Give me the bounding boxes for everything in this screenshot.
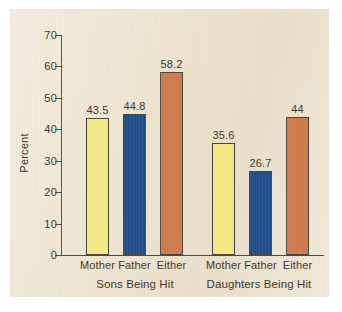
bar-sons-mother[interactable]: 43.5 <box>86 118 109 255</box>
y-tick-label: 20 <box>44 186 57 198</box>
x-axis-line <box>61 255 324 256</box>
x-label-daughters-either: Either <box>272 259 323 271</box>
bar-daughters-father[interactable]: 26.7 <box>249 171 272 255</box>
y-axis-line <box>61 35 62 256</box>
y-axis-title: Percent <box>18 133 30 172</box>
y-tick-label: 40 <box>44 123 57 135</box>
y-tick-label: 30 <box>44 155 57 167</box>
bar-value-label: 44.8 <box>123 100 145 112</box>
x-label-sons-either: Either <box>146 259 197 271</box>
bar-sons-either[interactable]: 58.2 <box>160 72 183 255</box>
bar-sons-father[interactable]: 44.8 <box>123 114 146 255</box>
group-title-sons: Sons Being Hit <box>69 278 201 290</box>
bar-value-label: 35.6 <box>212 129 234 141</box>
y-tick-label: 10 <box>44 218 57 230</box>
bar-value-label: 58.2 <box>160 58 182 70</box>
y-tick-label: 70 <box>44 29 57 41</box>
chart-figure: Percent 70 60 50 40 30 <box>0 0 342 312</box>
bar-value-label: 44 <box>291 103 304 115</box>
y-tick-label: 60 <box>44 60 57 72</box>
bar-daughters-mother[interactable]: 35.6 <box>212 143 235 255</box>
y-tick-label: 50 <box>44 92 57 104</box>
bar-value-label: 26.7 <box>249 157 271 169</box>
bar-daughters-either[interactable]: 44 <box>286 117 309 255</box>
bar-value-label: 43.5 <box>86 104 108 116</box>
group-title-daughters: Daughters Being Hit <box>193 278 325 290</box>
chart-panel: Percent 70 60 50 40 30 <box>10 9 329 297</box>
y-tick-label: 0 <box>51 249 57 261</box>
plot-area: 70 60 50 40 30 20 <box>61 35 326 255</box>
